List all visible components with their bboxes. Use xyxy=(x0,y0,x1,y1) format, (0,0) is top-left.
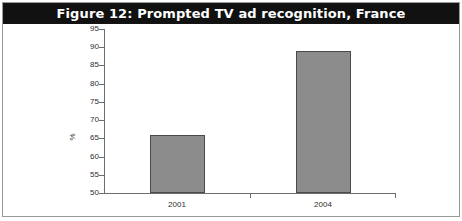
bar-2001 xyxy=(150,135,205,193)
y-axis-tick-mark xyxy=(99,120,104,121)
y-axis-tick-mark xyxy=(99,65,104,66)
x-axis-end-tick xyxy=(395,193,396,198)
y-axis-tick-label: 50 xyxy=(80,188,99,198)
x-axis-label-2001: 2001 xyxy=(147,200,207,210)
figure-title-bar: Figure 12: Prompted TV ad recognition, F… xyxy=(3,3,459,24)
figure-container: Figure 12: Prompted TV ad recognition, F… xyxy=(0,0,462,221)
x-axis-tick-mark xyxy=(250,193,251,198)
y-axis-tick-mark xyxy=(99,84,104,85)
y-axis-tick-label: 90 xyxy=(80,42,99,52)
y-axis-tick-mark xyxy=(99,193,104,194)
y-axis-line xyxy=(104,29,105,194)
y-axis-label: % xyxy=(66,130,80,144)
y-axis-tick-label: 75 xyxy=(80,97,99,107)
y-axis-tick-mark xyxy=(99,102,104,103)
y-axis-tick-label: 55 xyxy=(80,170,99,180)
y-axis-tick-mark xyxy=(99,29,104,30)
y-axis-tick-label: 60 xyxy=(80,152,99,162)
page-title: Figure 12: Prompted TV ad recognition, F… xyxy=(57,6,406,21)
y-axis-tick-labels: 50556065707580859095 xyxy=(80,24,99,216)
y-axis-tick-label: 95 xyxy=(80,24,99,34)
y-axis-tick-label: 85 xyxy=(80,60,99,70)
bar-2004 xyxy=(296,51,351,193)
y-axis-tick-mark xyxy=(99,175,104,176)
y-axis-tick-mark xyxy=(99,138,104,139)
plot-area: % 50556065707580859095 20012004 xyxy=(0,24,462,216)
y-axis-tick-mark xyxy=(99,47,104,48)
y-axis-tick-mark xyxy=(99,157,104,158)
y-axis-tick-label: 65 xyxy=(80,133,99,143)
x-axis-label-2004: 2004 xyxy=(293,200,353,210)
y-axis-tick-label: 80 xyxy=(80,79,99,89)
y-axis-tick-label: 70 xyxy=(80,115,99,125)
